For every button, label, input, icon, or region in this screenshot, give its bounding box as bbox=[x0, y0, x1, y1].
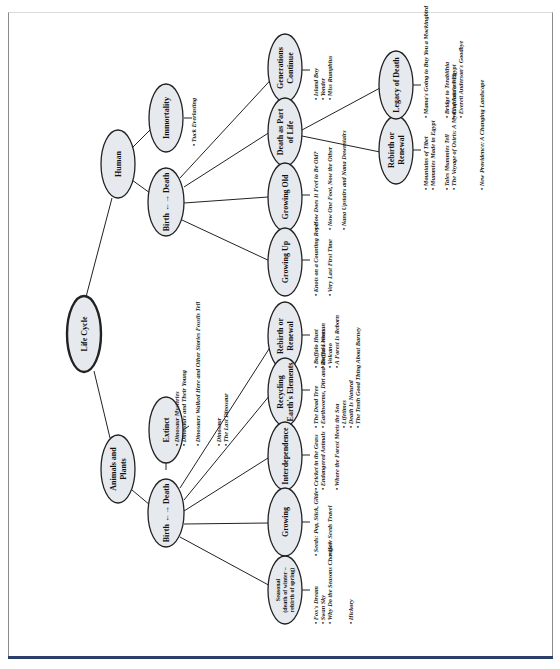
book-item: • Tuck Everlasting bbox=[190, 98, 197, 146]
booklist-growing-old: • How Does It Feel to Be Old? • Now One … bbox=[312, 130, 347, 230]
svg-text:• Everett Anderson's Goodbye: • Everett Anderson's Goodbye bbox=[457, 40, 464, 118]
node-animals-plants: Animals and Plants bbox=[101, 435, 135, 503]
svg-text:• Tales Mummies Tell: • Tales Mummies Tell bbox=[443, 134, 450, 190]
booklist-animal-rebirth: • Buffalo Hunt • Buffalo Woman • Volcano… bbox=[312, 314, 340, 368]
svg-text:of Life: of Life bbox=[286, 120, 295, 143]
booklist-legacy: • Mama's Going to Buy You a Mockingbird … bbox=[422, 5, 464, 118]
svg-text:• Dinosaur: • Dinosaur bbox=[215, 417, 222, 446]
svg-text:• Knots on a Counting Rope: • Knots on a Counting Rope bbox=[312, 223, 319, 296]
node-growing-up: Growing Up bbox=[268, 228, 302, 296]
node-death-part-of-life: Death as Part of Life bbox=[268, 98, 302, 166]
node-life-cycle: Life Cycle bbox=[67, 296, 101, 372]
svg-text:(death of winter –: (death of winter – bbox=[282, 566, 289, 612]
svg-text:Legacy of Death: Legacy of Death bbox=[392, 57, 401, 113]
svg-text:Recycling: Recycling bbox=[276, 375, 285, 408]
svg-text:Plants: Plants bbox=[119, 458, 128, 479]
node-immortality: Immortality bbox=[149, 84, 183, 152]
node-seasonal: Seasonal (death of winter – rebirth of s… bbox=[268, 556, 302, 624]
node-human-rebirth: Rebirth or Renewal bbox=[379, 116, 413, 184]
life-cycle-diagram: Life Cycle Human Immortality Birth ←→ De… bbox=[0, 0, 560, 669]
svg-text:• The Dead Tree: • The Dead Tree bbox=[312, 385, 319, 428]
svg-text:• Nana Upstairs and Nana Downs: • Nana Upstairs and Nana Downstairs bbox=[340, 130, 347, 230]
svg-text:• Where the Forest Meets the S: • Where the Forest Meets the Sea bbox=[333, 404, 340, 490]
svg-text:• Dinosaurs and Their Young: • Dinosaurs and Their Young bbox=[180, 370, 187, 446]
svg-text:rebirth of spring): rebirth of spring) bbox=[289, 568, 296, 613]
node-generations: Generations Continue bbox=[268, 34, 302, 102]
node-growing-old: Growing Old bbox=[268, 163, 302, 231]
svg-text:• Swan Sky: • Swan Sky bbox=[319, 595, 326, 624]
svg-text:Rebirth or: Rebirth or bbox=[387, 131, 396, 168]
svg-text:Birth ←→ Death: Birth ←→ Death bbox=[162, 483, 171, 542]
svg-text:Immortality: Immortality bbox=[162, 97, 171, 139]
svg-text:• Seeds: Pop, Stick, Glide: • Seeds: Pop, Stick, Glide bbox=[312, 490, 319, 556]
svg-text:Growing: Growing bbox=[281, 507, 290, 537]
svg-text:• Fox's Dream: • Fox's Dream bbox=[312, 586, 319, 624]
svg-text:• Cricket in the Grass: • Cricket in the Grass bbox=[312, 434, 319, 490]
svg-text:• Miss Rumphius: • Miss Rumphius bbox=[326, 55, 333, 100]
svg-text:• The Tenth Good Thing About B: • The Tenth Good Thing About Barney bbox=[354, 327, 361, 428]
svg-text:Continue: Continue bbox=[286, 52, 295, 84]
svg-text:• Dinosaur Mysteries: • Dinosaur Mysteries bbox=[173, 391, 180, 446]
svg-text:• Mummies Made in Egypt: • Mummies Made in Egypt bbox=[429, 120, 436, 190]
svg-text:• Dinosaurs Walked Here and Ot: • Dinosaurs Walked Here and Other Storie… bbox=[194, 302, 201, 446]
booklist-extinct: • Dinosaur Mysteries • Dinosaurs and The… bbox=[173, 302, 229, 446]
svg-text:Growing Up: Growing Up bbox=[281, 240, 290, 283]
svg-text:• Charlotte's Web: • Charlotte's Web bbox=[450, 73, 457, 118]
svg-text:• Endangered Animals: • Endangered Animals bbox=[319, 431, 326, 490]
booklist-immortality: • Tuck Everlasting bbox=[190, 98, 197, 146]
svg-text:• Hickory: • Hickory bbox=[347, 599, 354, 624]
node-growing: Growing bbox=[268, 488, 302, 556]
svg-text:Birth ←→ Death: Birth ←→ Death bbox=[162, 172, 171, 231]
node-label: Life Cycle bbox=[80, 316, 89, 351]
svg-text:• Buffalo Hunt: • Buffalo Hunt bbox=[312, 329, 319, 368]
svg-text:• Volcano: • Volcano bbox=[326, 343, 333, 368]
svg-text:• Death Is Natural: • Death Is Natural bbox=[347, 380, 354, 428]
svg-text:• A Forest Is Reborn: • A Forest Is Reborn bbox=[333, 314, 340, 368]
svg-text:• New Providence: A Changing L: • New Providence: A Changing Landscape bbox=[478, 80, 485, 190]
svg-text:Earth's Elements: Earth's Elements bbox=[286, 363, 295, 422]
svg-text:• Mama's Going to Buy You a Mo: • Mama's Going to Buy You a Mockingbird bbox=[422, 5, 429, 118]
svg-text:• Mountains of Tibet: • Mountains of Tibet bbox=[422, 136, 429, 190]
svg-text:• Very Last First Time: • Very Last First Time bbox=[326, 239, 333, 296]
svg-text:Human: Human bbox=[114, 151, 123, 177]
svg-text:Renewal: Renewal bbox=[397, 135, 406, 165]
svg-text:• Why Do the Seasons Change?: • Why Do the Seasons Change? bbox=[326, 542, 333, 624]
svg-text:• Island Boy: • Island Boy bbox=[312, 68, 319, 100]
svg-text:Growing Old: Growing Old bbox=[281, 174, 290, 220]
svg-text:• Bridge to Terabithia: • Bridge to Terabithia bbox=[443, 62, 450, 118]
node-legacy-of-death: Legacy of Death bbox=[379, 51, 413, 119]
svg-text:• Lifetimes: • Lifetimes bbox=[340, 400, 347, 428]
svg-text:• The Last Dinosaur: • The Last Dinosaur bbox=[222, 393, 229, 446]
svg-text:Extinct: Extinct bbox=[162, 417, 171, 442]
svg-text:• Now One Foot, Now the Other: • Now One Foot, Now the Other bbox=[326, 146, 333, 230]
svg-text:Rebirth or: Rebirth or bbox=[276, 317, 285, 354]
svg-text:Death as Part: Death as Part bbox=[276, 108, 285, 155]
booklist-growing-up: • Knots on a Counting Rope • Very Last F… bbox=[312, 223, 333, 296]
node-interdependence: Interdependence bbox=[268, 422, 302, 490]
svg-text:Renewal: Renewal bbox=[286, 321, 295, 351]
svg-text:Seasonal: Seasonal bbox=[275, 579, 281, 602]
node-animals-birth-death: Birth ←→ Death bbox=[148, 479, 184, 547]
svg-text:• Yonder: • Yonder bbox=[319, 78, 326, 100]
svg-text:Animals and: Animals and bbox=[109, 447, 118, 491]
node-recycling: Recycling Earth's Elements bbox=[268, 358, 302, 426]
edges bbox=[86, 70, 421, 590]
node-human-birth-death: Birth ←→ Death bbox=[148, 168, 184, 236]
node-human: Human bbox=[101, 130, 135, 198]
svg-text:• Earthworms, Dirt and Rotten: • Earthworms, Dirt and Rotten Leaves bbox=[319, 328, 326, 428]
svg-text:• How Does It Feel to Be Old?: • How Does It Feel to Be Old? bbox=[312, 151, 319, 230]
svg-text:Interdependence: Interdependence bbox=[281, 427, 290, 485]
booklist-generations: • Island Boy • Yonder • Miss Rumphius bbox=[312, 55, 333, 100]
svg-text:Generations: Generations bbox=[276, 47, 285, 89]
